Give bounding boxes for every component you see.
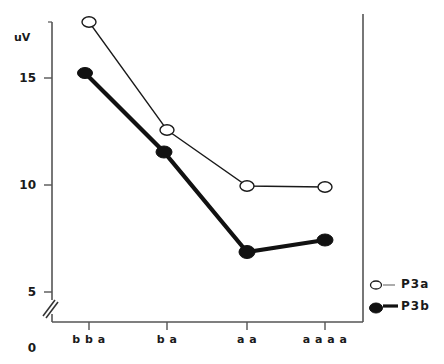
data-point-p3a-4	[318, 182, 332, 192]
chart-figure: uV 15 10 5 0 b b a b a a a a a a a P3a P…	[0, 0, 444, 364]
data-point-p3b-3	[239, 246, 255, 259]
y-tick-label-15: 15	[10, 71, 36, 85]
data-point-p3a-2	[160, 125, 174, 135]
legend-label-p3b: P3b	[401, 299, 430, 313]
x-tick-label-3: a a	[207, 333, 287, 346]
data-point-p3b-1	[78, 68, 93, 79]
y-tick-label-0: 0	[10, 341, 36, 355]
x-tick-label-2: b a	[127, 333, 207, 346]
x-tick-label-4: a a a a	[285, 333, 365, 346]
data-point-p3a-3	[240, 181, 254, 191]
y-tick-label-10: 10	[10, 178, 36, 192]
y-axis-title: uV	[14, 31, 30, 44]
legend-label-p3a: P3a	[401, 277, 429, 291]
series-line-p3b	[85, 73, 325, 252]
x-tick-label-1: b b a	[49, 333, 129, 346]
plot-area	[0, 0, 444, 364]
legend-marker-p3b	[370, 303, 383, 313]
axis-break-icon	[43, 300, 58, 318]
data-point-p3a-1	[82, 17, 96, 27]
data-point-p3b-2	[156, 146, 172, 158]
legend-marker-p3a	[371, 281, 382, 289]
series-line-p3a	[89, 22, 325, 187]
y-tick-label-5: 5	[10, 285, 36, 299]
data-point-p3b-4	[317, 234, 333, 246]
